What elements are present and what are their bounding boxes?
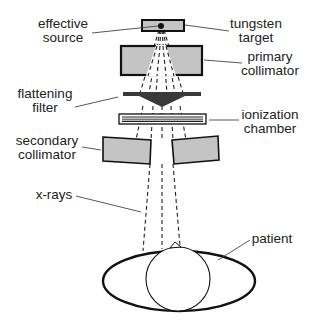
label-effective-source-line2: source [30, 31, 96, 45]
patient [103, 242, 255, 311]
secondary-collimator-left-jaw [103, 137, 151, 164]
secondary-collimator-right-jaw [172, 136, 219, 164]
label-flattening-filter-line2: filter [14, 101, 76, 115]
label-patient: patient [250, 232, 294, 246]
patient-head [146, 247, 210, 311]
label-ionization-chamber: ionization chamber [238, 108, 302, 136]
label-primary-collimator: primary collimator [238, 50, 302, 78]
effective-source-dot [158, 23, 164, 29]
label-secondary-collimator: secondary collimator [14, 134, 80, 162]
label-ionization-chamber-line1: ionization [238, 108, 302, 122]
label-secondary-collimator-line2: collimator [14, 148, 80, 162]
label-tungsten-target: tungsten target [226, 17, 286, 45]
label-flattening-filter: flattening filter [14, 87, 76, 115]
flattening-filter [123, 92, 201, 107]
label-x-rays: x-rays [34, 188, 74, 202]
label-tungsten-target-line1: tungsten [226, 17, 286, 31]
label-effective-source-line1: effective [30, 17, 96, 31]
label-flattening-filter-line1: flattening [14, 87, 76, 101]
label-ionization-chamber-line2: chamber [238, 122, 302, 136]
label-primary-collimator-line1: primary [238, 50, 302, 64]
label-secondary-collimator-line1: secondary [14, 134, 80, 148]
label-x-rays-line1: x-rays [34, 188, 74, 202]
label-patient-line1: patient [250, 232, 294, 246]
ionization-chamber [119, 114, 206, 124]
label-primary-collimator-line2: collimator [238, 64, 302, 78]
label-effective-source: effective source [30, 17, 96, 45]
label-tungsten-target-line2: target [226, 31, 286, 45]
